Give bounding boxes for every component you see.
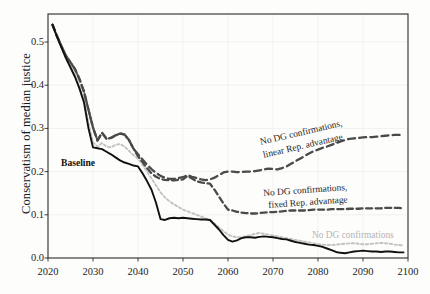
x-tick-label: 2030 — [73, 266, 113, 277]
y-tick-label: 0.5 — [18, 36, 44, 47]
y-tick-label: 0.4 — [18, 79, 44, 90]
chart-figure: Conservatism of median justice 0.0 0.1 0… — [0, 0, 430, 294]
series-label-baseline: Baseline — [61, 157, 95, 168]
x-tick-label: 2080 — [298, 266, 338, 277]
y-tick-label: 0.0 — [18, 252, 44, 263]
x-tick-label: 2060 — [208, 266, 248, 277]
y-tick-label: 0.3 — [18, 122, 44, 133]
chart-plot-area — [0, 0, 430, 294]
x-tick-label: 2040 — [118, 266, 158, 277]
series-label-nodg: No DG confirmations — [312, 230, 394, 241]
x-tick-label: 2100 — [388, 266, 428, 277]
x-tick-label: 2090 — [343, 266, 383, 277]
x-tick-label: 2020 — [28, 266, 68, 277]
x-tick-label: 2070 — [253, 266, 293, 277]
x-tick-label: 2050 — [163, 266, 203, 277]
y-tick-label: 0.1 — [18, 209, 44, 220]
y-tick-label: 0.2 — [18, 166, 44, 177]
